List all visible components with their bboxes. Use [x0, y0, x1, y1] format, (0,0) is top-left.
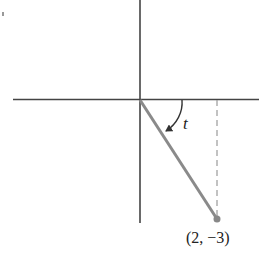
angle-diagram: t (2, −3)	[0, 0, 259, 262]
point-coordinate-label: (2, −3)	[186, 230, 230, 246]
point-marker	[214, 216, 221, 223]
stray-mark	[2, 12, 4, 16]
angle-arc-arrow	[166, 100, 182, 131]
angle-label: t	[183, 115, 188, 132]
